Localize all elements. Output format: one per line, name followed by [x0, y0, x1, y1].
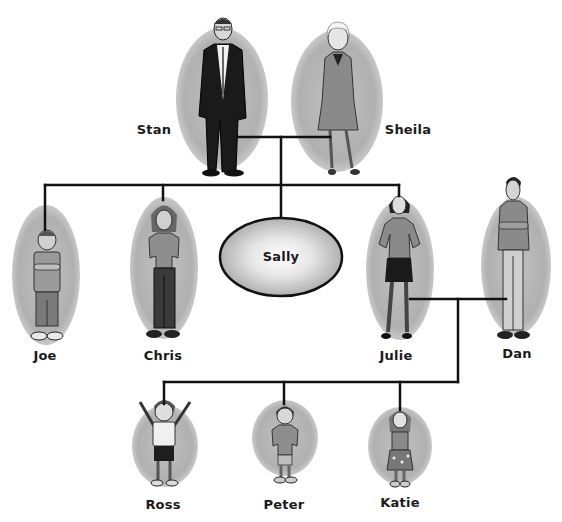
label-ross: Ross	[145, 497, 180, 512]
label-chris: Chris	[144, 348, 182, 363]
label-joe: Joe	[33, 348, 56, 363]
label-katie: Katie	[380, 495, 419, 510]
label-sheila: Sheila	[385, 122, 431, 137]
label-julie: Julie	[380, 348, 413, 363]
label-stan: Stan	[137, 122, 171, 137]
label-peter: Peter	[264, 497, 305, 512]
label-dan: Dan	[502, 346, 531, 361]
label-sally: Sally	[263, 249, 300, 264]
